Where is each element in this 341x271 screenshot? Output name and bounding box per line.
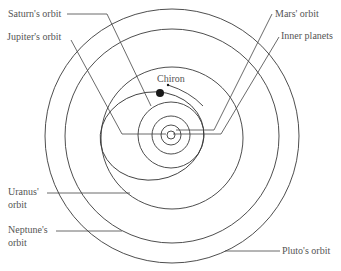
arrow-head-icon <box>167 84 169 86</box>
neptune-label-line1: Neptune's <box>8 224 48 235</box>
inner-planets-label: Inner planets <box>281 30 333 41</box>
chiron-label: Chiron <box>157 73 185 84</box>
inner-planets-leader <box>173 37 279 134</box>
saturn-label: Saturn's orbit <box>8 8 61 19</box>
jupiter-orbit <box>152 116 190 154</box>
neptune-label-line2: orbit <box>8 237 27 248</box>
pluto-orbit <box>45 9 299 263</box>
pluto-label: Pluto's orbit <box>282 245 330 256</box>
inner-planets-orbit <box>167 131 175 139</box>
mars-label: Mars' orbit <box>275 8 319 19</box>
jupiter-leader <box>71 40 166 134</box>
chiron-motion-arrow <box>168 85 203 106</box>
neptune-orbit <box>65 29 279 243</box>
chiron-body <box>156 89 164 97</box>
saturn-orbit <box>138 102 204 168</box>
jupiter-label: Jupiter's orbit <box>7 31 61 42</box>
uranus-orbit <box>101 67 243 209</box>
mars-orbit <box>161 125 181 145</box>
uranus-label-line2: orbit <box>8 199 27 210</box>
saturn-leader <box>67 14 151 106</box>
uranus-label-line1: Uranus' <box>8 186 39 197</box>
